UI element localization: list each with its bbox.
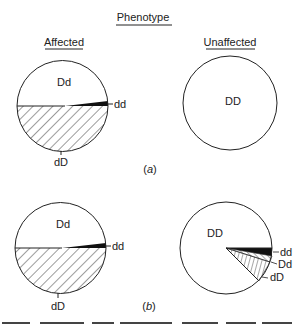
diagram-title: Phenotype	[117, 11, 170, 23]
pie-b-unaffected-label-Dd: Dd	[278, 258, 292, 270]
caption-b: (b)	[142, 300, 155, 312]
pie-b-unaffected	[180, 202, 272, 294]
pie-b-unaffected-label-dd: dd	[280, 246, 292, 258]
pie-b-affected-label-dd: dd	[112, 240, 124, 252]
pie-b-affected	[15, 203, 111, 299]
pie-a-affected-label-dd-wedge: dd	[114, 98, 126, 110]
phenotype-diagram: Phenotype Affected Unaffected Dd dd dD D…	[0, 0, 302, 324]
column-header-affected: Affected	[44, 36, 84, 48]
caption-a: (a)	[143, 163, 156, 175]
pie-b-unaffected-label-dD: dD	[270, 271, 284, 283]
pie-b-affected-label-dD: dD	[51, 300, 65, 312]
column-header-unaffected: Unaffected	[203, 36, 256, 48]
pie-b-affected-label-Dd: Dd	[56, 218, 70, 230]
pie-a-affected-label-dd-upper: Dd	[57, 76, 71, 88]
pie-a-unaffected-label-DD: DD	[225, 95, 241, 107]
pie-a-affected	[17, 61, 113, 156]
pie-a-affected-label-dD: dD	[54, 156, 68, 168]
pie-b-unaffected-label-DD: DD	[207, 227, 223, 239]
